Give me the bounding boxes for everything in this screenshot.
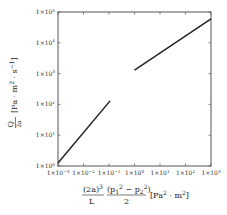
svg-text:Q 2a: Q 2a <box>6 118 22 127</box>
x-tick-label: 1×100 <box>125 169 144 177</box>
x-axis-label: (2a)3 L (p12 − p22) 2 [Pa2 · m2] <box>82 183 189 206</box>
y-label-den: 2a <box>15 120 22 128</box>
y-tick-label: 1×104 <box>36 38 55 46</box>
y-tick-label: 1×105 <box>36 8 55 16</box>
data-series <box>58 19 211 163</box>
y-unit-c: · s <box>10 69 19 81</box>
series-line-segment-1 <box>58 101 110 163</box>
x-frac2-a: (p <box>107 185 115 194</box>
x-frac2-d: − p <box>123 185 140 194</box>
x-tick-label: 1×10−2 <box>72 169 95 177</box>
svg-text:(2a)3: (2a)3 <box>83 183 103 194</box>
x-tick-label: 1×103 <box>201 169 220 177</box>
svg-text:[Pa · m2 · s−1]: [Pa · m2 · s−1] <box>8 57 19 113</box>
y-tick-label: 1×103 <box>36 69 55 77</box>
x-frac1-sup: 3 <box>99 183 103 190</box>
chart: 1×10−31×10−21×10−11×1001×1011×1021×103 1… <box>0 0 227 215</box>
x-unit-a: [Pa <box>150 191 163 200</box>
x-unit-e: ] <box>186 191 189 200</box>
y-label-num: Q <box>6 121 15 128</box>
y-axis-label: Q 2a [Pa · m2 · s−1] <box>6 57 22 128</box>
x-tick-label: 1×101 <box>150 169 169 177</box>
y-tick-label: 1×101 <box>36 131 55 139</box>
svg-text:(p12 − p22): (p12 − p22) <box>107 183 151 195</box>
y-tick-label: 1×102 <box>36 100 55 108</box>
x-frac2-den: 2 <box>124 197 129 206</box>
x-tick-label: 1×102 <box>176 169 195 177</box>
x-frac1-num: (2a) <box>83 185 99 194</box>
x-unit-c: · m <box>167 191 183 200</box>
svg-text:[Pa2 · m2]: [Pa2 · m2] <box>150 189 189 200</box>
y-unit-d: −1 <box>8 60 15 69</box>
x-tick-label: 1×10−1 <box>98 169 121 177</box>
y-unit-e: ] <box>10 57 19 60</box>
y-unit-a: [Pa · m <box>10 84 19 113</box>
x-frac1-den: L <box>89 197 95 206</box>
series-line-segment-2 <box>135 19 212 70</box>
x-axis-ticks: 1×10−31×10−21×10−11×1001×1011×1021×103 <box>47 12 221 176</box>
y-tick-label: 1×100 <box>36 162 55 170</box>
x-tick-label: 1×10−3 <box>47 169 70 177</box>
y-axis-ticks: 1×1001×1011×1021×1031×1041×105 <box>36 8 211 170</box>
